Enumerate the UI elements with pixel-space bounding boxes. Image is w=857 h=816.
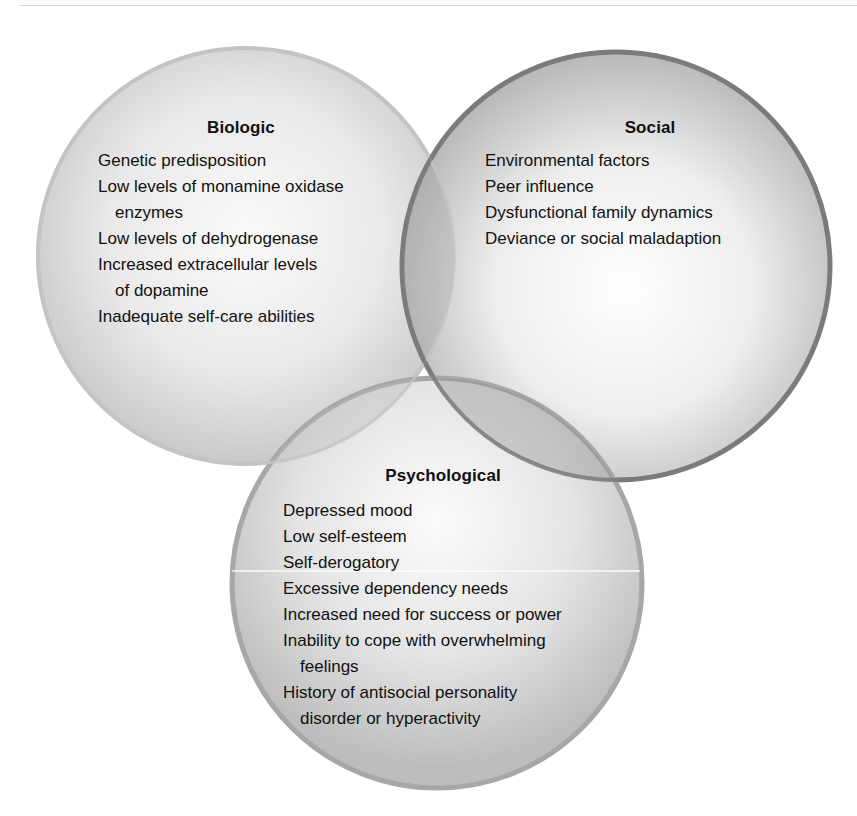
- list-item-continuation: of dopamine: [98, 278, 408, 304]
- list-item: Inability to cope with overwhelming: [283, 628, 643, 654]
- psychological-label-block: Psychological Depressed mood Low self-es…: [283, 466, 643, 732]
- list-item: Deviance or social maladaption: [485, 226, 785, 252]
- biologic-title: Biologic: [74, 118, 408, 138]
- biologic-label-block: Biologic Genetic predisposition Low leve…: [98, 118, 408, 330]
- biologic-factor-list: Genetic predisposition Low levels of mon…: [98, 148, 408, 330]
- list-item: Genetic predisposition: [98, 148, 408, 174]
- list-item-continuation: feelings: [283, 654, 643, 680]
- list-item: Increased extracellular levels: [98, 252, 408, 278]
- psychological-factor-list: Depressed mood Low self-esteem Self-dero…: [283, 498, 643, 732]
- list-item: Dysfunctional family dynamics: [485, 200, 785, 226]
- list-item-continuation: enzymes: [98, 200, 408, 226]
- list-item: History of antisocial personality: [283, 680, 643, 706]
- list-item: Depressed mood: [283, 498, 643, 524]
- list-item: Low levels of monamine oxidase: [98, 174, 408, 200]
- list-item: Environmental factors: [485, 148, 785, 174]
- list-item: Excessive dependency needs: [283, 576, 643, 602]
- list-item: Peer influence: [485, 174, 785, 200]
- list-item: Low levels of dehydrogenase: [98, 226, 408, 252]
- psychological-title: Psychological: [243, 466, 643, 486]
- list-item: Increased need for success or power: [283, 602, 643, 628]
- list-item: Inadequate self-care abilities: [98, 304, 408, 330]
- social-factor-list: Environmental factors Peer influence Dys…: [485, 148, 785, 252]
- social-title: Social: [515, 118, 785, 138]
- list-item: Low self-esteem: [283, 524, 643, 550]
- social-label-block: Social Environmental factors Peer influe…: [485, 118, 785, 252]
- list-item: Self-derogatory: [283, 550, 643, 576]
- list-item-continuation: disorder or hyperactivity: [283, 706, 643, 732]
